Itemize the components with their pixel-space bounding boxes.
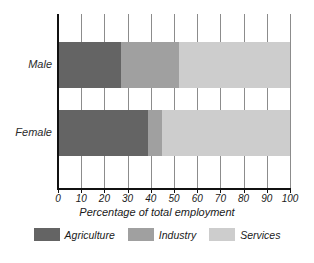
- tick-label-90: 90: [261, 193, 272, 204]
- legend-swatch-agriculture: [34, 228, 60, 241]
- category-axis-labels: Male Female: [0, 14, 52, 188]
- tick-label-10: 10: [76, 193, 87, 204]
- category-label-female: Female: [0, 126, 52, 138]
- legend-item-industry[interactable]: Industry: [128, 228, 196, 241]
- plot-bars: [58, 14, 290, 188]
- bar-segment-female-services: [162, 110, 290, 156]
- category-label-male: Male: [0, 58, 52, 70]
- tick-label-80: 80: [238, 193, 249, 204]
- x-axis-title: Percentage of total employment: [0, 206, 314, 218]
- tick-label-0: 0: [55, 193, 61, 204]
- tick-label-50: 50: [168, 193, 179, 204]
- legend-item-agriculture[interactable]: Agriculture: [34, 228, 115, 241]
- bar-segment-male-agriculture: [58, 42, 121, 88]
- tick-label-60: 60: [192, 193, 203, 204]
- stacked-bar-chart: Male Female 0102030405060708090100 Perce…: [0, 0, 314, 263]
- y-axis-line: [57, 14, 59, 189]
- chart-legend: AgricultureIndustryServices: [0, 228, 314, 241]
- tick-label-30: 30: [122, 193, 133, 204]
- legend-swatch-services: [209, 228, 235, 241]
- tick-label-40: 40: [145, 193, 156, 204]
- legend-item-services[interactable]: Services: [209, 228, 280, 241]
- tick-label-70: 70: [215, 193, 226, 204]
- bar-segment-female-agriculture: [58, 110, 148, 156]
- legend-label-services: Services: [240, 229, 280, 241]
- tick-label-100: 100: [282, 193, 299, 204]
- tick-label-20: 20: [99, 193, 110, 204]
- legend-label-industry: Industry: [159, 229, 196, 241]
- bar-segment-male-industry: [121, 42, 179, 88]
- bar-segment-female-industry: [148, 110, 162, 156]
- bar-segment-male-services: [179, 42, 290, 88]
- gridline-100: [290, 14, 291, 188]
- legend-label-agriculture: Agriculture: [65, 229, 115, 241]
- legend-swatch-industry: [128, 228, 154, 241]
